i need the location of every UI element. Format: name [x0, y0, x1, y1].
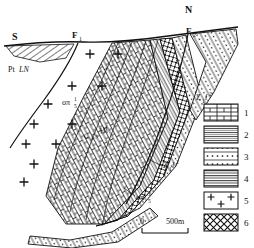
label-unit-sinian-1-sup: 2 [209, 91, 212, 97]
label-unit-ptln-italic: LN [18, 65, 29, 74]
legend-item-5: 5 [204, 192, 249, 209]
legend-num-5: 5 [244, 196, 249, 206]
scale-bar-line [142, 228, 188, 233]
label-unit-sinian-2-sup: 2 [176, 159, 179, 165]
label-unit-granite-1-sup: 1 [74, 96, 77, 102]
label-unit-granite-2-text: oπ [136, 193, 144, 202]
label-fault-f2-sub: 2 [193, 32, 196, 38]
legend-swatch-crosshatch [204, 214, 238, 231]
label-fault-f1: F 1 [72, 30, 82, 42]
legend-item-2: 2 [204, 126, 249, 143]
legend: 1 2 3 4 5 6 [204, 104, 249, 231]
label-unit-sinian-2-text: Z [163, 161, 168, 170]
legend-num-6: 6 [244, 218, 249, 228]
cross-section-svg: S N F 1 F 2 Pt LN oπ 5 1 C 2-3 Hf [0, 0, 254, 248]
legend-num-1: 1 [244, 108, 249, 118]
legend-num-4: 4 [244, 174, 249, 184]
section-body [4, 27, 238, 248]
label-unit-granite-1-sub: 5 [74, 103, 77, 109]
label-unit-sinian-1-text: Z [196, 93, 201, 102]
label-unit-granite-1-text: oπ [62, 98, 70, 107]
legend-item-1: 1 [204, 104, 249, 121]
legend-swatch-lines [204, 126, 238, 143]
legend-item-6: 6 [204, 214, 249, 231]
legend-num-3: 3 [244, 152, 249, 162]
label-fault-f1-text: F [72, 30, 78, 40]
label-unit-ptln-text: Pt [8, 65, 15, 74]
legend-num-2: 2 [244, 130, 249, 140]
legend-item-4: 4 [204, 170, 249, 187]
scale-end: 500m [166, 217, 185, 226]
legend-item-3: 3 [204, 148, 249, 165]
label-unit-granite-2-sub: 5 [148, 198, 151, 204]
label-fault-f2-text: F [186, 26, 192, 36]
legend-swatch-dotted [204, 148, 238, 165]
legend-swatch-lines-gray [204, 170, 238, 187]
legend-swatch-brick [204, 104, 238, 121]
label-unit-ptln: Pt LN [8, 65, 29, 74]
label-unit-granite-2-sup: 1 [148, 191, 151, 197]
label-north: N [185, 4, 193, 15]
label-south: S [12, 31, 18, 42]
scale-start: 0 [140, 217, 144, 226]
figure-root: S N F 1 F 2 Pt LN oπ 5 1 C 2-3 Hf [0, 0, 254, 248]
label-fault-f1-sub: 1 [79, 36, 82, 42]
